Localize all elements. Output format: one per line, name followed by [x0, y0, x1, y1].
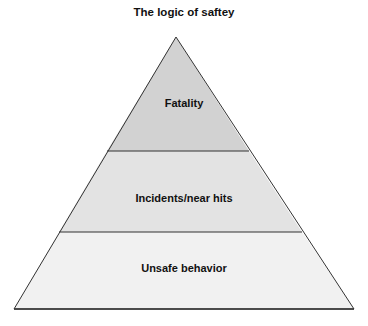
- pyramid-tier-top: [107, 37, 249, 151]
- pyramid: [0, 0, 368, 326]
- tier-label-unsafe-behavior: Unsafe behavior: [0, 262, 368, 274]
- tier-label-fatality: Fatality: [0, 97, 368, 109]
- tier-label-incidents: Incidents/near hits: [0, 192, 368, 204]
